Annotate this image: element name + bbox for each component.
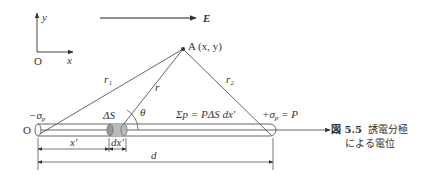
caption-line2: による電位: [331, 137, 408, 151]
inset-y-label: y: [41, 11, 47, 23]
distance-lines: A (x, y) r₁ r r₂: [38, 40, 271, 135]
dx-prime-label: dx′: [111, 136, 124, 148]
delta-s-label: ΔS: [102, 109, 115, 121]
figure-number: 図 5.5: [331, 124, 362, 135]
sum-dipole-label: Σp = PΔS dx′: [175, 108, 236, 120]
dipole-diagram: y x O E A (x, y) r₁ r r₂ θ ΔS Σp = PΔS d…: [0, 0, 425, 178]
electric-field-arrow: E: [100, 12, 210, 24]
left-charge-label: −σp: [29, 109, 46, 123]
point-a-dot: [181, 47, 185, 51]
r2-label: r₂: [226, 73, 234, 85]
inset-x-label: x: [66, 54, 72, 66]
dielectric-rod: θ ΔS Σp = PΔS dx′ −σp +σp = P O x: [23, 106, 341, 136]
r-label: r: [155, 81, 160, 93]
inset-axes: y x O: [34, 11, 73, 67]
caption-line1: 誘電分極: [368, 124, 408, 135]
r1-label: r₁: [104, 73, 112, 85]
x-prime-label: x′: [69, 136, 78, 148]
field-label: E: [202, 12, 210, 24]
inset-origin-label: O: [34, 55, 42, 67]
figure-caption: 図 5.5誘電分極 による電位: [331, 123, 408, 151]
theta-label: θ: [140, 106, 146, 118]
right-charge-label: +σp = P: [262, 108, 298, 122]
rod-origin-label: O: [23, 124, 31, 136]
point-a-label: A (x, y): [188, 40, 222, 53]
d-label: d: [151, 149, 157, 161]
dimension-lines: x′ dx′ d: [38, 136, 273, 170]
